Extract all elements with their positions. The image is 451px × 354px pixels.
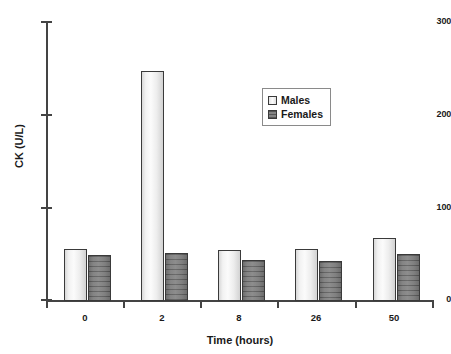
bar-males-2: [141, 71, 164, 301]
bar-females-2: [165, 253, 188, 301]
legend-item-males: Males: [268, 93, 323, 107]
x-tick-end: [432, 300, 434, 308]
x-tick-label-50: 50: [364, 312, 424, 323]
y-tick-300: [41, 21, 52, 23]
legend-label-females: Females: [281, 108, 323, 120]
x-tick-label-26: 26: [286, 312, 346, 323]
x-tick-2: [200, 300, 202, 308]
legend-swatch-females-icon: [268, 110, 277, 119]
legend-label-males: Males: [281, 94, 310, 106]
legend-item-females: Females: [268, 107, 323, 121]
x-tick-label-2: 2: [132, 312, 192, 323]
bar-males-50: [373, 238, 396, 301]
x-tick-start: [46, 300, 48, 308]
x-tick-label-0: 0: [55, 312, 115, 323]
y-tick-label-200: 200: [417, 110, 451, 119]
y-tick-200: [41, 114, 52, 116]
bar-females-8: [242, 260, 265, 301]
y-axis-line: [46, 22, 48, 301]
y-tick-100: [41, 207, 52, 209]
y-axis-title: CK (U/L): [13, 96, 25, 196]
bar-males-26: [295, 249, 318, 301]
bar-chart: 300 200 100 0 CK (U/L) 0 2 8 26 50 Time …: [0, 0, 451, 354]
legend-swatch-males-icon: [268, 96, 277, 105]
bar-males-0: [64, 249, 87, 301]
x-tick-1: [123, 300, 125, 308]
bar-males-8: [218, 250, 241, 301]
y-tick-label-100: 100: [417, 203, 451, 212]
bar-females-0: [88, 255, 111, 301]
bar-females-26: [319, 261, 342, 301]
x-tick-label-8: 8: [209, 312, 269, 323]
x-tick-4: [355, 300, 357, 308]
y-tick-label-300: 300: [417, 17, 451, 26]
x-tick-3: [277, 300, 279, 308]
x-axis-title: Time (hours): [46, 334, 434, 346]
bar-females-50: [397, 254, 420, 301]
legend: Males Females: [262, 88, 331, 126]
